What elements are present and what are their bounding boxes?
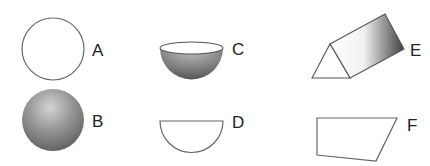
shape-f-quadrilateral: F — [317, 116, 417, 161]
shape-b-sphere: B — [22, 89, 103, 151]
label-e: E — [410, 41, 421, 60]
label-f: F — [407, 116, 417, 135]
label-c: C — [232, 40, 244, 59]
shape-d-semicircle: D — [160, 113, 244, 153]
shapes-diagram: A B C D E F — [0, 0, 430, 166]
label-d: D — [232, 113, 244, 132]
label-b: B — [92, 112, 103, 131]
shape-a-circle: A — [22, 18, 104, 80]
shape-c-hemisphere: C — [160, 40, 244, 80]
shape-e-prism: E — [312, 14, 421, 78]
label-a: A — [92, 41, 104, 60]
